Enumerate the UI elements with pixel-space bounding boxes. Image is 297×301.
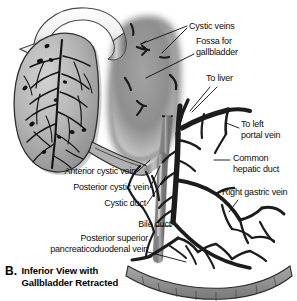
figure-letter-text: B: [5, 264, 14, 278]
label-common-hepatic-duct-line1: Common: [233, 153, 268, 163]
caption-line-1: Inferior View with: [21, 265, 118, 277]
label-to-left-portal-vein-line2: portal vein: [241, 130, 280, 140]
label-psp-line2: pancreaticoduodenal vein: [50, 244, 148, 254]
label-fossa-line1: Fossa for: [196, 36, 232, 46]
label-cystic-duct: Cystic duct: [0, 198, 146, 209]
anatomical-illustration: [0, 0, 297, 301]
figure-letter: B.: [5, 265, 17, 277]
label-right-gastric-vein: Right gastric vein: [222, 187, 287, 198]
label-fossa-line2: gallbladder: [196, 47, 238, 57]
label-common-hepatic-duct: Common hepatic duct: [233, 153, 279, 174]
gallbladder: [14, 33, 102, 175]
label-posterior-superior-pancreaticoduodenal-vein: Posterior superior pancreaticoduodenal v…: [0, 233, 148, 254]
label-fossa-for-gallbladder: Fossa for gallbladder: [196, 36, 238, 57]
label-cystic-veins: Cystic veins: [189, 21, 235, 32]
label-psp-line1: Posterior superior: [81, 233, 148, 243]
label-to-left-portal-vein-line1: To left: [241, 119, 264, 129]
label-common-hepatic-duct-line2: hepatic duct: [233, 164, 279, 174]
label-posterior-cystic-vein: Posterior cystic vein: [0, 182, 149, 193]
label-bile-duct: Bile duct: [0, 219, 171, 230]
label-anterior-cystic-vein: Anterior cystic vein: [0, 166, 136, 177]
label-to-liver: To liver: [206, 73, 233, 84]
figure-caption: B. Inferior View with Gallbladder Retrac…: [5, 265, 118, 290]
figure-caption-text: Inferior View with Gallbladder Retracted: [21, 265, 118, 289]
label-to-left-portal-vein: To left portal vein: [241, 119, 280, 140]
caption-line-2: Gallbladder Retracted: [21, 277, 118, 289]
